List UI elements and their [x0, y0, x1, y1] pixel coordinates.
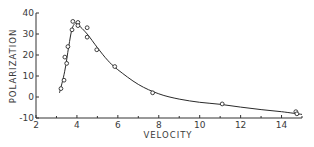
- x-tick-label: 6: [115, 120, 121, 130]
- data-point-marker: [70, 28, 74, 32]
- polarization-vs-velocity-chart: 2468101214 -10010203040 VELOCITY POLARIZ…: [0, 0, 314, 147]
- y-tick-label: 30: [23, 29, 35, 39]
- x-tick-label: 10: [194, 120, 206, 130]
- chart-svg: 2468101214 -10010203040 VELOCITY POLARIZ…: [0, 0, 314, 147]
- data-point-marker: [59, 87, 63, 91]
- axes: [36, 13, 302, 118]
- data-point-marker: [71, 20, 75, 24]
- data-point-marker: [66, 45, 70, 49]
- x-ticks: 2468101214: [33, 115, 302, 130]
- y-tick-label: 40: [23, 8, 35, 18]
- x-tick-label: 4: [74, 120, 80, 130]
- data-point-marker: [113, 65, 117, 69]
- y-tick-label: -10: [19, 113, 34, 123]
- data-point-marker: [151, 91, 155, 95]
- y-tick-label: 0: [28, 92, 34, 102]
- data-point-marker: [76, 24, 80, 28]
- y-tick-label: 20: [23, 50, 35, 60]
- data-point-marker: [63, 55, 67, 59]
- data-point-marker: [295, 112, 299, 116]
- x-tick-label: 12: [235, 120, 246, 130]
- data-point-marker: [85, 26, 89, 30]
- data-point-marker: [62, 78, 66, 82]
- data-point-marker: [85, 35, 89, 39]
- data-point-marker: [220, 102, 224, 106]
- x-tick-label: 8: [156, 120, 162, 130]
- data-points: [59, 20, 299, 116]
- y-axis-title: POLARIZATION: [8, 29, 18, 104]
- fit-curve: [60, 23, 303, 114]
- data-point-marker: [65, 62, 69, 66]
- data-point-marker: [95, 48, 99, 52]
- y-tick-label: 10: [23, 71, 35, 81]
- x-tick-label: 14: [276, 120, 288, 130]
- x-axis-title: VELOCITY: [143, 130, 192, 140]
